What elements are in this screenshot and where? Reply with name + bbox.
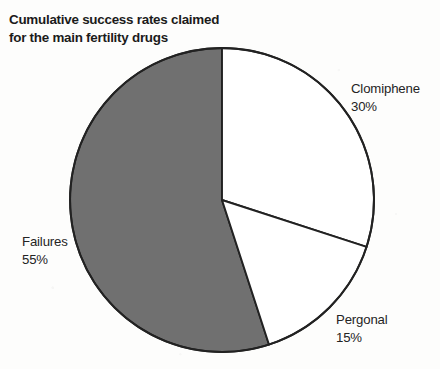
pie-label-pergonal: Pergonal 15% <box>336 311 388 346</box>
pie-label-clomiphene: Clomiphene 30% <box>351 80 420 115</box>
pie-label-failures: Failures 55% <box>22 233 68 268</box>
chart-page: Cumulative success rates claimed for the… <box>0 0 440 369</box>
